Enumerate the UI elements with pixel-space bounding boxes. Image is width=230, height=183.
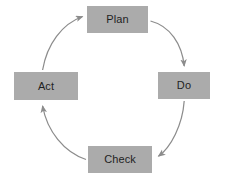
node-plan-label: Plan [106,14,128,25]
node-do[interactable]: Do [158,72,210,99]
pdca-cycle-diagram: Plan Do Check Act [0,0,230,183]
arrow-act-to-plan [43,17,83,71]
node-act-label: Act [38,81,54,92]
node-check[interactable]: Check [88,146,152,173]
arrow-do-to-check [159,101,185,156]
node-act[interactable]: Act [14,72,78,100]
node-do-label: Do [177,80,191,91]
node-check-label: Check [104,154,136,165]
node-plan[interactable]: Plan [87,6,148,33]
arrow-plan-to-do [151,21,185,66]
arrow-check-to-act [43,106,86,160]
